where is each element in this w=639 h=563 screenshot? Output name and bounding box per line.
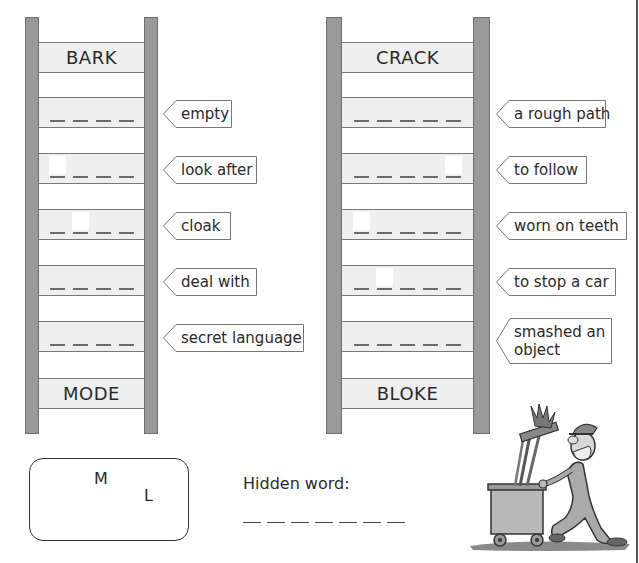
letter-blank[interactable] [377, 176, 392, 178]
left-ladder-row-1[interactable] [39, 97, 144, 128]
letter-blank[interactable] [377, 120, 392, 122]
hidden-word-blank[interactable] [243, 522, 261, 523]
letter-blank[interactable] [96, 232, 111, 234]
letter-blank[interactable] [446, 120, 461, 122]
letter-blank[interactable] [446, 232, 461, 234]
letter-blank[interactable] [423, 232, 438, 234]
page-border [636, 0, 638, 563]
clue-text: cloak [163, 217, 228, 235]
hidden-word-blank[interactable] [387, 522, 405, 523]
letter-blank[interactable] [377, 232, 392, 234]
highlighted-letter-blank[interactable] [446, 176, 461, 178]
letter-blanks[interactable] [342, 232, 473, 234]
letter-blank[interactable] [377, 344, 392, 346]
letter-blank[interactable] [446, 344, 461, 346]
letter-blank[interactable] [96, 344, 111, 346]
letter-blanks[interactable] [39, 176, 144, 178]
right-ladder-row-2[interactable] [342, 153, 473, 184]
letter-blank[interactable] [119, 232, 134, 234]
letter-blank[interactable] [423, 176, 438, 178]
right-ladder-bottom-word: BLOKE [342, 378, 473, 409]
letter-blank[interactable] [50, 344, 65, 346]
left-ladder-right-rail [144, 17, 158, 434]
hidden-word-blanks[interactable] [243, 522, 405, 523]
highlighted-letter-blank[interactable] [377, 288, 392, 290]
hidden-word-blank[interactable] [291, 522, 309, 523]
left-ladder-top-word: BARK [39, 42, 144, 73]
left-ladder-row-3[interactable] [39, 209, 144, 240]
right-ladder-row-1[interactable] [342, 97, 473, 128]
hidden-word-blank[interactable] [315, 522, 333, 523]
right-ladder-top-word: CRACK [342, 42, 473, 73]
letter-blank[interactable] [354, 176, 369, 178]
letter-blank[interactable] [73, 120, 88, 122]
letter-blank[interactable] [119, 344, 134, 346]
highlighted-letter-blank[interactable] [354, 232, 369, 234]
letter-blank[interactable] [96, 176, 111, 178]
right-ladder-row-5[interactable] [342, 321, 473, 352]
letter-blank[interactable] [400, 176, 415, 178]
letter-blank[interactable] [354, 120, 369, 122]
letter-blank[interactable] [400, 344, 415, 346]
letter-blank[interactable] [96, 120, 111, 122]
letter-blank[interactable] [73, 288, 88, 290]
letter-blank[interactable] [50, 288, 65, 290]
clue-text: empty [163, 105, 237, 123]
hidden-word-blank[interactable] [363, 522, 381, 523]
letter-blank[interactable] [119, 176, 134, 178]
letter-blanks[interactable] [342, 120, 473, 122]
letter-blank[interactable] [354, 344, 369, 346]
top-word-text: BARK [66, 47, 117, 68]
hidden-word-blank[interactable] [339, 522, 357, 523]
clue-text: deal with [163, 273, 258, 291]
hidden-word-blank[interactable] [267, 522, 285, 523]
right-ladder-row-3[interactable] [342, 209, 473, 240]
highlighted-letter-blank[interactable] [50, 176, 65, 178]
letter-blank[interactable] [423, 344, 438, 346]
letter-blank[interactable] [119, 120, 134, 122]
clue-tag-a-rough-path: a rough path [496, 100, 606, 128]
right-ladder-row-4[interactable] [342, 265, 473, 296]
clue-tag-smashed-an-object: smashed an object [496, 318, 612, 364]
left-ladder-row-5[interactable] [39, 321, 144, 352]
letter-blank[interactable] [96, 288, 111, 290]
letter-blank[interactable] [73, 176, 88, 178]
clue-text: to follow [496, 161, 586, 179]
letter-blanks[interactable] [342, 344, 473, 346]
letter-blank[interactable] [400, 232, 415, 234]
left-ladder-row-2[interactable] [39, 153, 144, 184]
letter-blanks[interactable] [342, 176, 473, 178]
right-ladder-left-rail [326, 17, 342, 434]
letter-blank[interactable] [423, 120, 438, 122]
letter-blank[interactable] [354, 288, 369, 290]
letter-blanks[interactable] [39, 344, 144, 346]
letter-blank[interactable] [400, 288, 415, 290]
letter-blank[interactable] [50, 232, 65, 234]
letter-blank[interactable] [50, 120, 65, 122]
letter-blank[interactable] [119, 288, 134, 290]
right-ladder-right-rail [473, 17, 490, 434]
top-word-text: CRACK [376, 47, 439, 68]
clue-tag-deal-with: deal with [163, 268, 257, 296]
highlighted-letter-blank[interactable] [73, 232, 88, 234]
clue-tag-empty: empty [163, 100, 232, 128]
left-ladder-left-rail [25, 17, 39, 434]
left-ladder-row-4[interactable] [39, 265, 144, 296]
clue-text: smashed an object [496, 323, 613, 359]
left-ladder-bottom-word: MODE [39, 378, 144, 409]
bottom-word-text: MODE [63, 383, 120, 404]
clue-text: a rough path [496, 105, 618, 123]
letter-blank[interactable] [446, 288, 461, 290]
letter-blanks[interactable] [39, 232, 144, 234]
letter-blanks[interactable] [39, 120, 144, 122]
letter-blank[interactable] [73, 344, 88, 346]
letter-blank[interactable] [400, 120, 415, 122]
hidden-word-label: Hidden word: [243, 474, 350, 493]
bottom-word-text: BLOKE [377, 383, 439, 404]
letter-blanks[interactable] [342, 288, 473, 290]
collected-letters-box: M L [29, 458, 189, 541]
clue-text: look after [163, 161, 260, 179]
letter-blank[interactable] [423, 288, 438, 290]
letter-blanks[interactable] [39, 288, 144, 290]
clue-text-line-2: object [514, 341, 605, 359]
